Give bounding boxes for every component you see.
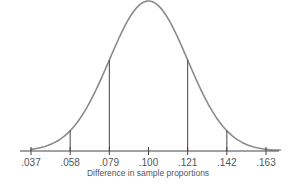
reference-lines bbox=[70, 60, 227, 151]
x-tick-label: .058 bbox=[60, 157, 80, 168]
x-tick-label: .142 bbox=[217, 157, 237, 168]
x-tick-label: .037 bbox=[21, 157, 41, 168]
x-axis-tick-labels: .037.058.079.100.121.142.163 bbox=[21, 157, 276, 168]
normal-curve bbox=[30, 1, 281, 150]
normal-distribution-chart: .037.058.079.100.121.142.163 Difference … bbox=[0, 0, 293, 188]
x-tick-label: .100 bbox=[139, 157, 159, 168]
x-tick-label: .121 bbox=[178, 157, 198, 168]
x-axis-title: Difference in sample proportions bbox=[87, 168, 209, 178]
x-tick-label: .079 bbox=[100, 157, 120, 168]
x-tick-label: .163 bbox=[256, 157, 276, 168]
